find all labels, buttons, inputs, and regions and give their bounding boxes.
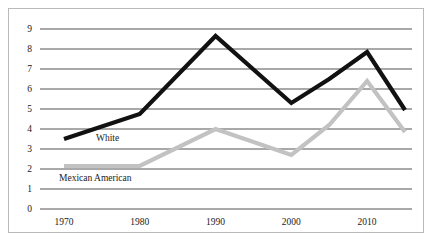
y-tick-label-5: 5 [16, 104, 32, 114]
series-label-mexican-american: Mexican American [59, 173, 132, 183]
y-tick-label-3: 3 [16, 144, 32, 154]
y-tick-label-0: 0 [16, 204, 32, 214]
x-tick-label-1990: 1990 [196, 217, 236, 227]
y-tick-label-8: 8 [16, 44, 32, 54]
x-tick-label-1980: 1980 [120, 217, 160, 227]
x-tick-label-2010: 2010 [347, 217, 387, 227]
y-tick-label-1: 1 [16, 184, 32, 194]
y-tick-label-2: 2 [16, 164, 32, 174]
y-tick-label-4: 4 [16, 124, 32, 134]
chart-plot-area [0, 0, 436, 245]
chart-container: 0123456789 19701980199020002010 White Me… [0, 0, 436, 245]
series-label-white: White [96, 133, 119, 143]
y-tick-label-6: 6 [16, 84, 32, 94]
series-lines-group [64, 36, 405, 166]
y-tick-label-9: 9 [16, 24, 32, 34]
x-tick-label-1970: 1970 [44, 217, 84, 227]
x-tick-label-2000: 2000 [271, 217, 311, 227]
y-tick-label-7: 7 [16, 64, 32, 74]
series-line-white [64, 36, 405, 139]
